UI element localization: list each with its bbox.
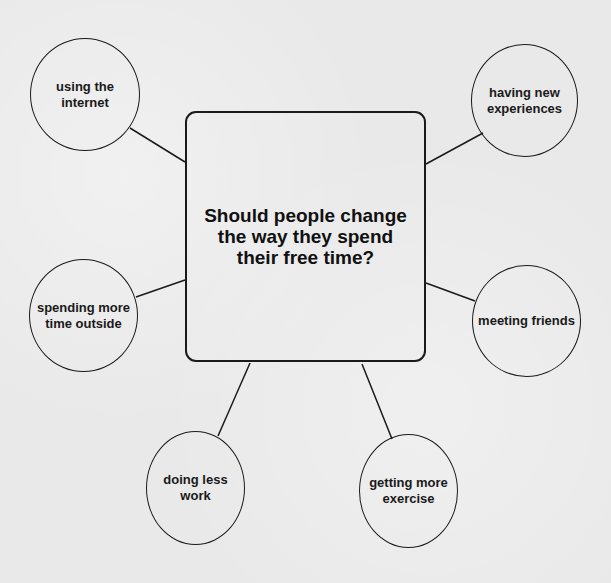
mind-map-canvas: Should people change the way they spend … <box>0 0 611 583</box>
node-using-the-internet: using the internet <box>30 38 140 151</box>
node-label: having new experiences <box>481 85 569 117</box>
node-having-new-experiences: having new experiences <box>471 44 578 157</box>
node-label: spending more time outside <box>32 300 135 332</box>
node-meeting-friends: meeting friends <box>472 265 581 377</box>
node-label: doing less work <box>157 472 235 504</box>
node-label: getting more exercise <box>362 475 455 507</box>
node-spending-more-time-outside: spending more time outside <box>29 259 138 372</box>
connector-doing-less-work <box>218 363 250 436</box>
central-topic-box: Should people change the way they spend … <box>185 111 426 362</box>
node-label: using the internet <box>46 79 124 111</box>
connector-spending-more-time-outside <box>136 280 185 297</box>
node-label: meeting friends <box>474 313 579 329</box>
central-topic-text: Should people change the way they spend … <box>187 205 424 268</box>
connector-having-new-experiences <box>426 133 483 164</box>
node-doing-less-work: doing less work <box>146 431 245 545</box>
connector-getting-more-exercise <box>362 364 392 439</box>
connector-meeting-friends <box>426 283 475 301</box>
node-getting-more-exercise: getting more exercise <box>359 434 458 548</box>
connector-using-the-internet <box>130 128 185 162</box>
